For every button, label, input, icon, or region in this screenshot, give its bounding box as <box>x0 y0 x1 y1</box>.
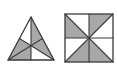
square-pinwheel-figure <box>62 0 117 75</box>
geometry-figure-panel <box>0 0 117 75</box>
square-internal-lines <box>65 14 113 62</box>
triangle-with-medians-figure <box>0 0 62 75</box>
